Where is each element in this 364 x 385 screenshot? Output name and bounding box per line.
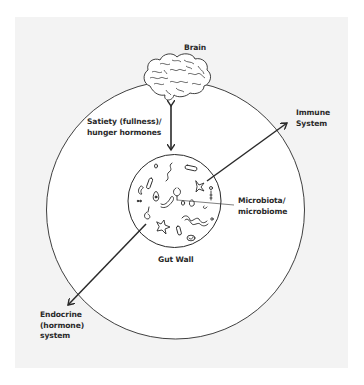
endocrine-system-label: Endocrine (hormone) system <box>40 310 84 342</box>
satiety-label: Satiety (fullness)/ hunger hormones <box>87 117 162 138</box>
gut-wall-circle <box>128 155 221 248</box>
brain-label: Brain <box>184 43 206 54</box>
immune-system-label: Immune System <box>296 108 330 129</box>
microbiota-label: Microbiota/ microbiome <box>238 196 287 217</box>
gut-wall-label: Gut Wall <box>158 255 194 266</box>
